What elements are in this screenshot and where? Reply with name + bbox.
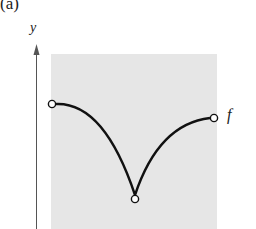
y-axis-arrow-icon bbox=[34, 44, 40, 55]
figure: (a) y f bbox=[0, 0, 256, 229]
bottom-open-point bbox=[131, 195, 138, 202]
right-open-point bbox=[210, 114, 217, 121]
left-open-point bbox=[48, 100, 55, 107]
plot-svg bbox=[0, 0, 256, 229]
